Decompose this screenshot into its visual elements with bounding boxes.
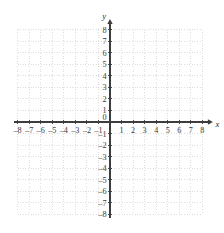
y-tick-label: –5 (97, 176, 106, 185)
x-tick-label: –4 (59, 126, 68, 135)
y-tick-label: 7 (102, 37, 106, 46)
y-tick-label: –7 (97, 199, 106, 208)
x-tick-label: 3 (143, 126, 147, 135)
y-tick-label: –2 (97, 141, 106, 150)
x-axis-label: x (214, 119, 219, 129)
y-tick-label: 6 (102, 49, 106, 58)
y-tick-label: –3 (97, 153, 106, 162)
y-axis-label: y (101, 11, 106, 21)
y-tick-label: 2 (102, 95, 106, 104)
x-tick-label: 6 (177, 126, 181, 135)
y-tick-label: –6 (97, 187, 106, 196)
x-tick-label: –8 (13, 126, 22, 135)
x-tick-label: 4 (154, 126, 158, 135)
y-tick-label: –1 (97, 130, 106, 139)
coordinate-plane-figure: –8–7–6–5–4–3–2–112345678–8–7–6–5–4–3–2–1… (0, 0, 224, 233)
x-tick-label: –2 (82, 126, 91, 135)
y-tick-label: –4 (97, 164, 106, 173)
x-tick-label: 2 (131, 126, 135, 135)
y-tick-label: 4 (102, 72, 106, 81)
y-tick-label: 8 (102, 26, 106, 35)
coordinate-grid: –8–7–6–5–4–3–2–112345678–8–7–6–5–4–3–2–1… (0, 0, 224, 233)
x-tick-label: –7 (24, 126, 33, 135)
y-tick-label: 3 (102, 83, 106, 92)
x-tick-label: 5 (166, 126, 170, 135)
origin-label: 0 (102, 113, 106, 122)
x-tick-label: –6 (36, 126, 45, 135)
x-tick-label: 7 (189, 126, 193, 135)
y-tick-label: –8 (97, 210, 106, 219)
y-tick-label: 5 (102, 60, 106, 69)
figure-background (0, 0, 224, 233)
x-tick-label: 1 (120, 126, 124, 135)
x-tick-label: –3 (70, 126, 79, 135)
x-tick-label: 8 (200, 126, 204, 135)
x-tick-label: –5 (47, 126, 56, 135)
